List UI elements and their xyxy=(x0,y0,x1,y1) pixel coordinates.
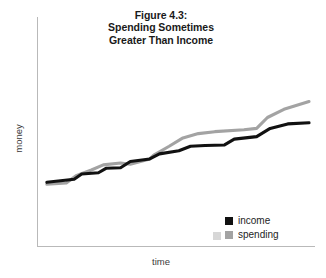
figure-container: Figure 4.3: Spending Sometimes Greater T… xyxy=(0,0,326,278)
chart-title-line-2: Spending Sometimes xyxy=(63,21,259,33)
legend-swatch-spending-icon xyxy=(225,231,233,239)
y-axis-label: money xyxy=(13,109,24,169)
line-series-income xyxy=(47,123,309,183)
legend-swatch-spending-shadow-icon xyxy=(213,232,221,240)
legend-item-spending: spending xyxy=(225,228,305,242)
x-axis-line xyxy=(37,246,315,247)
legend-item-income: income xyxy=(225,214,305,228)
legend-label-spending: spending xyxy=(238,228,279,242)
chart-title-line-1: Figure 4.3: xyxy=(63,9,259,21)
y-axis-line xyxy=(37,17,38,246)
x-axis-label: time xyxy=(126,256,196,267)
chart-title-line-3: Greater Than Income xyxy=(63,34,259,46)
chart-title: Figure 4.3: Spending Sometimes Greater T… xyxy=(63,9,259,46)
line-series-spending xyxy=(47,102,309,185)
chart-legend: income spending xyxy=(225,214,305,242)
legend-label-income: income xyxy=(238,214,270,228)
legend-swatch-income-icon xyxy=(225,217,233,225)
